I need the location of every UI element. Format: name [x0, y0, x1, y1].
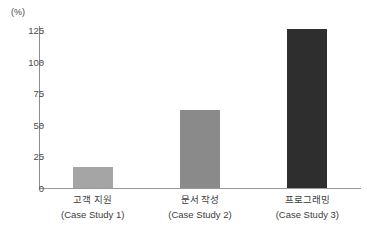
category-label-sub: (Case Study 2) [140, 207, 260, 222]
y-tick: 75 [0, 93, 44, 94]
bar-chart: (%) 0255075100125 고객 지원(Case Study 1)문서 … [0, 0, 367, 228]
category-label-main: 고객 지원 [73, 194, 112, 205]
y-tick: 50 [0, 125, 44, 126]
y-tick: 125 [0, 30, 44, 31]
category-label-main: 문서 작성 [181, 194, 220, 205]
bar [73, 167, 113, 188]
category-label: 문서 작성(Case Study 2) [140, 192, 260, 222]
x-axis-line [39, 188, 361, 189]
y-tick: 100 [0, 62, 44, 63]
y-tick: 0 [0, 188, 44, 189]
y-axis-unit-label: (%) [11, 7, 25, 17]
bars-container [39, 0, 361, 188]
y-tick: 25 [0, 156, 44, 157]
category-label-main: 프로그래밍 [285, 194, 330, 205]
x-axis-category-labels: 고객 지원(Case Study 1)문서 작성(Case Study 2)프로… [39, 192, 361, 226]
category-label-sub: (Case Study 3) [247, 207, 367, 222]
bar [180, 110, 220, 188]
category-label-sub: (Case Study 1) [33, 207, 153, 222]
category-label: 고객 지원(Case Study 1) [33, 192, 153, 222]
bar [287, 29, 327, 188]
category-label: 프로그래밍(Case Study 3) [247, 192, 367, 222]
